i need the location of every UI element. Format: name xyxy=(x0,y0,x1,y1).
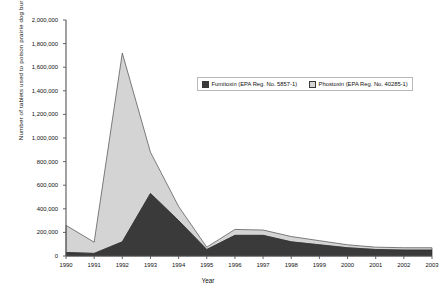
legend-item: Phostoxin (EPA Reg. No. 40285-1) xyxy=(309,80,408,88)
legend-item: Fumitoxin (EPA Reg. No. 5857-1) xyxy=(202,80,297,88)
legend-label: Phostoxin (EPA Reg. No. 40285-1) xyxy=(319,80,408,88)
x-axis-title-text: Year xyxy=(202,277,215,284)
x-axis-tick-label: 2003 xyxy=(415,262,444,268)
chart-legend: Fumitoxin (EPA Reg. No. 5857-1)Phostoxin… xyxy=(197,77,413,91)
legend-label: Fumitoxin (EPA Reg. No. 5857-1) xyxy=(212,80,298,88)
legend-swatch-light xyxy=(309,81,316,88)
x-axis-title: Year xyxy=(0,277,444,284)
chart-container: Number of tablets used to poison prairie… xyxy=(0,0,444,304)
plot-area xyxy=(0,0,444,304)
legend-swatch-dark xyxy=(202,81,209,88)
